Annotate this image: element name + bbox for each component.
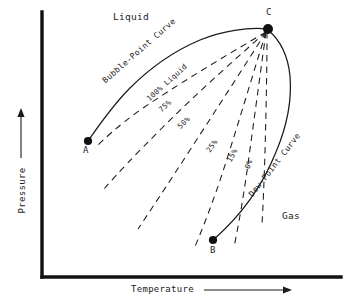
point-marker-a bbox=[84, 137, 92, 145]
point-label-a: A bbox=[83, 146, 89, 155]
point-label-b: B bbox=[210, 246, 216, 255]
point-marker-c bbox=[263, 24, 273, 34]
x-axis-label: Temperature bbox=[131, 285, 194, 294]
quality-line-50 bbox=[138, 32, 266, 229]
point-marker-b bbox=[209, 236, 217, 244]
y-axis-label: Pressure bbox=[18, 159, 27, 223]
phase-envelope-diagram: Liquid Gas A B C Bubble-Point Curve Dew-… bbox=[0, 0, 346, 302]
quality-line-0 bbox=[262, 32, 267, 224]
temperature-axis-arrow bbox=[204, 286, 292, 293]
region-label-liquid: Liquid bbox=[113, 12, 149, 22]
pressure-axis-arrow bbox=[17, 108, 24, 158]
up-arrow-icon bbox=[17, 108, 24, 117]
diagram-canvas bbox=[0, 0, 346, 302]
point-label-c: C bbox=[266, 8, 272, 17]
region-label-gas: Gas bbox=[282, 211, 300, 221]
right-arrow-icon bbox=[283, 286, 292, 293]
point-markers-group bbox=[84, 24, 273, 244]
